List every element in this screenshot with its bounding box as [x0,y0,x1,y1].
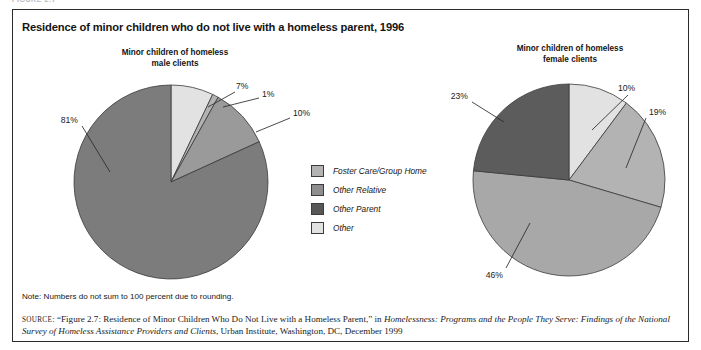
source-part2: , Urban Institute, Washington, DC, Decem… [216,326,403,336]
legend-swatch-foster-care [311,165,324,177]
figure-container: FIGURE 2.7 Residence of minor children w… [0,0,701,350]
pie-male-label-7: 7% [236,81,249,91]
source-citation: SOURCE: “Figure 2.7: Residence of Minor … [22,314,672,338]
note-text: Note: Numbers do not sum to 100 percent … [22,292,233,301]
chart-heading-male-line1: Minor children of homeless [110,48,240,59]
legend-item-other-parent: Other Parent [311,199,427,218]
legend-swatch-other-parent [311,203,324,215]
figure-number-label: FIGURE 2.7 [12,0,56,3]
pie-female-label-23: 23% [451,91,469,101]
chart-legend: Foster Care/Group Home Other Relative Ot… [311,161,427,237]
legend-swatch-other-relative [311,184,324,196]
legend-label-other-relative: Other Relative [333,185,386,195]
pie-slice [473,84,569,180]
pie-male-label-1: 1% [262,89,275,99]
figure-title: Residence of minor children who do not l… [22,21,404,33]
chart-heading-male: Minor children of homeless male clients [110,48,240,69]
legend-item-other-relative: Other Relative [311,180,427,199]
chart-heading-female: Minor children of homeless female client… [505,44,635,65]
legend-label-other: Other [333,223,354,233]
legend-item-foster-care: Foster Care/Group Home [311,161,427,180]
legend-swatch-other [311,222,324,234]
chart-heading-male-line2: male clients [110,59,240,70]
source-part1: : “Figure 2.7: Residence of Minor Childr… [52,314,384,324]
pie-female-label-10: 10% [618,83,636,93]
pie-female-label-46: 46% [486,270,504,280]
pie-female-label-19: 19% [649,107,667,117]
legend-item-other: Other [311,218,427,237]
chart-heading-female-line2: female clients [505,55,635,66]
source-prefix: SOURCE [22,316,52,324]
legend-label-other-parent: Other Parent [333,204,381,214]
pie-slices-male [74,85,268,279]
pie-chart-male: 7% 1% 10% 81% [60,70,320,285]
pie-male-label-81: 81% [61,115,79,125]
legend-label-foster-care: Foster Care/Group Home [333,166,427,176]
pie-slices-female [473,84,665,276]
pie-male-label-10: 10% [293,108,311,118]
pie-chart-female: 10% 19% 46% 23% [460,70,700,290]
chart-heading-female-line1: Minor children of homeless [505,44,635,55]
